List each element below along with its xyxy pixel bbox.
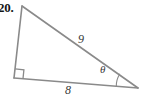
theta-angle-label: θ [100,64,105,75]
triangle-side-left-leg [14,6,22,78]
theta-arc-icon [116,74,119,86]
triangle-side-hypotenuse [22,6,138,88]
triangle-side-base [14,78,138,88]
base-length-label: 8 [65,84,71,96]
problem-number: 20. [0,1,14,14]
geometry-figure: 20. 9 8 θ [0,0,142,99]
hypotenuse-length-label: 9 [78,33,84,45]
right-angle-mark-icon [15,69,24,79]
right-triangle-drawing [0,0,142,99]
